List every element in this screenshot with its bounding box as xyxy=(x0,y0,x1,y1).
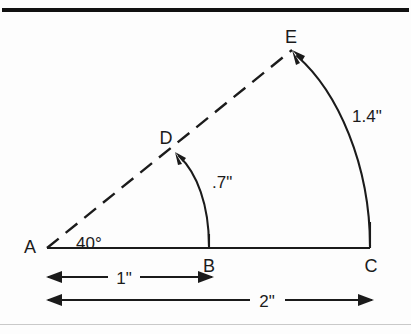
angle-label-40-degrees: 40° xyxy=(76,234,102,253)
arrowhead-2-inch-right xyxy=(358,294,374,306)
arc-c-to-e xyxy=(297,56,370,246)
geometry-figure: A B C D E 40° .7" 1.4" 1" 2" xyxy=(0,0,411,334)
point-label-e: E xyxy=(285,27,297,47)
ray-a-through-d-to-e xyxy=(47,50,292,248)
dimension-label-1-inch: 1" xyxy=(116,269,132,288)
point-label-c: C xyxy=(365,256,378,276)
point-label-d: D xyxy=(160,128,173,148)
diagram-page: A B C D E 40° .7" 1.4" 1" 2" xyxy=(0,0,411,334)
point-label-b: B xyxy=(203,256,215,276)
arc-b-to-d xyxy=(179,156,209,246)
arrowhead-1-inch-left xyxy=(46,271,62,283)
arrowhead-2-inch-left xyxy=(46,294,62,306)
arc-label-point-seven-inch: .7" xyxy=(212,173,232,192)
arc-label-one-point-four-inch: 1.4" xyxy=(352,107,382,126)
dimension-label-2-inch: 2" xyxy=(259,292,275,311)
point-label-a: A xyxy=(24,237,36,257)
